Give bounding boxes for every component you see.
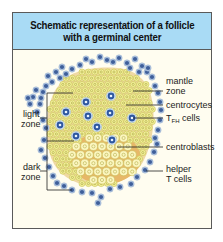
label-centrocytes: centrocytes [166,100,213,110]
label-helper-t-1: helper [166,164,191,174]
label-tfh-cells: TFH cells [166,113,201,124]
tfh-cells-word: cells [180,113,201,123]
label-mantle-zone-2: zone [166,86,186,96]
tfh-subscript: FH [172,118,180,124]
label-light-zone-1: light [23,109,40,119]
follicle-diagram: mantle zone centrocytes TFH cells centro… [0,0,223,242]
label-dark-zone-2: zone [21,172,41,182]
label-helper-t-2: T cells [166,174,192,184]
label-dark-zone-1: dark [23,162,41,172]
label-centroblasts: centroblasts [166,142,215,152]
label-mantle-zone-1: mantle [166,76,193,86]
label-light-zone-2: zone [21,119,41,129]
